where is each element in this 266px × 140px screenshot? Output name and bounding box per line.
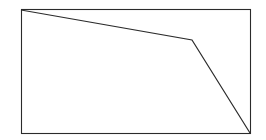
figure-canvas bbox=[0, 0, 266, 140]
line-figure-svg bbox=[0, 0, 266, 140]
plot-border-rectangle bbox=[22, 10, 251, 134]
